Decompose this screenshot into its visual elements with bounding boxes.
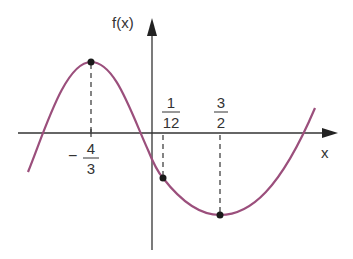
- inflection-point: [160, 175, 167, 182]
- max-point: [88, 59, 95, 66]
- x-axis-arrow-icon: [322, 128, 338, 138]
- tick-label-den: 2: [217, 114, 225, 131]
- tick-label-num: 4: [87, 140, 95, 157]
- function-graph: f(x) x − 4 3 1 12 3 2: [0, 0, 353, 259]
- tick-label-den: 3: [87, 160, 95, 177]
- x-axis-label: x: [321, 144, 329, 161]
- tick-label-sign: −: [68, 147, 77, 164]
- y-axis-label: f(x): [112, 14, 134, 31]
- min-point: [217, 212, 224, 219]
- tick-label-num: 1: [167, 94, 175, 111]
- function-curve: [28, 62, 315, 215]
- tick-label-num: 3: [217, 94, 225, 111]
- tick-label-den: 12: [163, 114, 180, 131]
- y-axis-arrow-icon: [147, 18, 157, 36]
